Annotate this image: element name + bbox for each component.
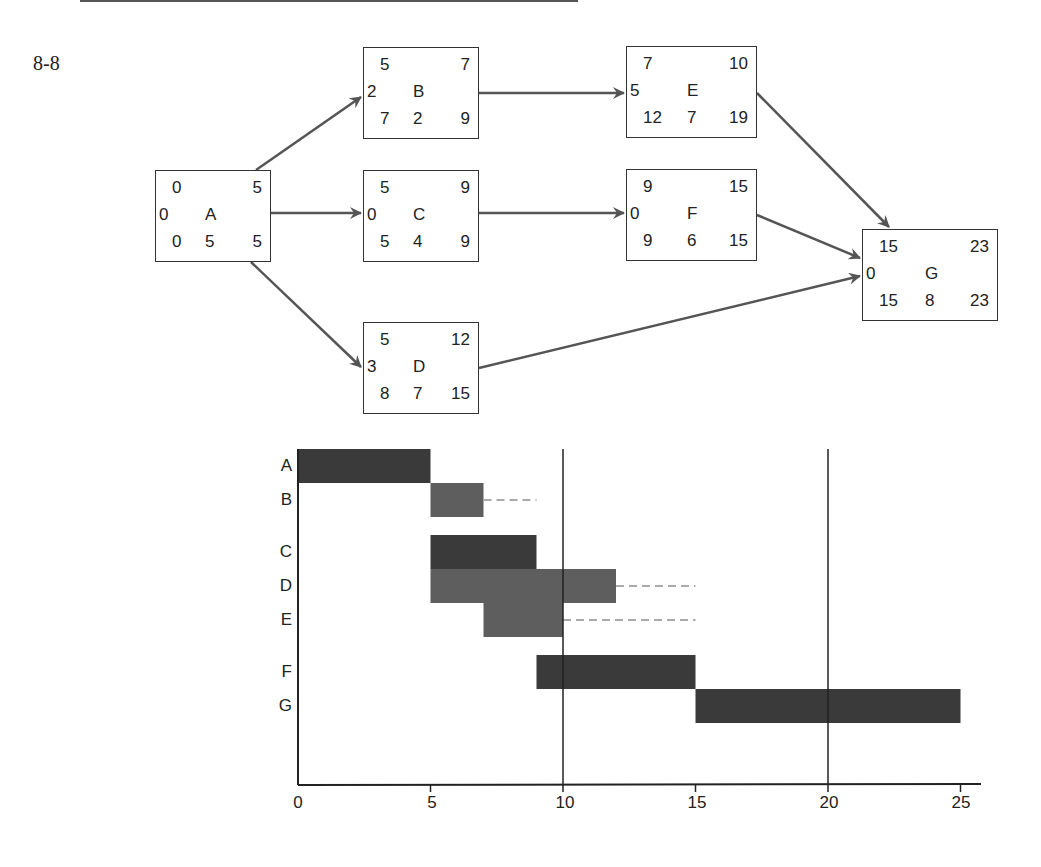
x-tick-5: 5 xyxy=(427,793,436,813)
row-label-f: F xyxy=(272,662,292,682)
x-tick-20: 20 xyxy=(820,793,839,813)
x-tick-15: 15 xyxy=(688,793,707,813)
gantt-bar-c xyxy=(431,535,537,569)
row-label-e: E xyxy=(272,610,292,630)
x-axis xyxy=(298,784,981,785)
x-tick-10: 10 xyxy=(556,793,575,813)
row-label-a: A xyxy=(272,456,292,476)
row-label-d: D xyxy=(272,576,292,596)
gantt-chart xyxy=(0,0,1041,867)
row-label-c: C xyxy=(272,542,292,562)
gantt-bar-e xyxy=(484,603,564,637)
gantt-bar-d xyxy=(431,569,617,603)
gantt-bar-f xyxy=(537,655,696,689)
row-label-g: G xyxy=(272,696,292,716)
gantt-bar-b xyxy=(431,483,484,517)
gantt-bar-a xyxy=(298,449,431,483)
x-tick-0: 0 xyxy=(293,793,302,813)
row-label-b: B xyxy=(272,490,292,510)
x-tick-25: 25 xyxy=(952,793,971,813)
